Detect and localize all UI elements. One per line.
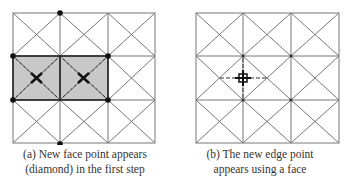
caption-b-line2: appears using a face [175,162,345,177]
caption-b-line1: (b) The new edge point [175,147,345,162]
caption-a-line2: (diamond) in the first step [0,162,170,177]
diagram-figures [0,0,347,145]
figure-b-grid [196,13,339,143]
figure-a-grid [10,10,155,145]
edge-point-marker [235,70,251,86]
caption-b: (b) The new edge point appears using a f… [175,147,345,177]
caption-a: (a) New face point appears (diamond) in … [0,147,170,177]
caption-a-line1: (a) New face point appears [0,147,170,162]
